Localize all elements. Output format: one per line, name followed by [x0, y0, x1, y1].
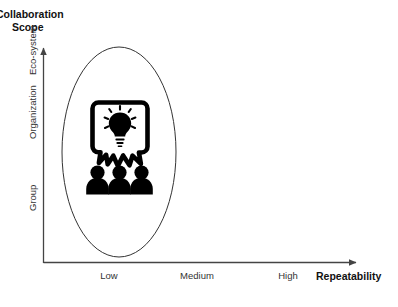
person-head [90, 165, 104, 179]
person-middle [108, 165, 131, 194]
bulb-base-line-2 [116, 142, 123, 144]
person-body [86, 178, 109, 195]
person-body [130, 178, 153, 195]
person-right [130, 165, 153, 194]
people-idea-presentation-icon [86, 103, 153, 195]
x-tick-label-medium: Medium [174, 270, 220, 281]
x-axis-title: Repeatability [316, 270, 381, 282]
y-axis-title-line-2: Scope [0, 21, 156, 34]
diagram-graphics [0, 0, 398, 307]
diagram-canvas: Collaboration Scope Repeatability Low Me… [0, 0, 398, 307]
bulb-base-line-1 [115, 139, 124, 141]
person-head [134, 165, 148, 179]
lightbulb-icon [109, 113, 131, 137]
x-tick-label-low: Low [92, 270, 126, 281]
bulb-base-line-3 [118, 145, 123, 147]
y-tick-label-organization: Organization [27, 128, 41, 139]
y-tick-label-ecosystem: Eco-system [27, 64, 41, 75]
y-tick-label-group: Group [27, 200, 41, 211]
person-head [112, 165, 126, 179]
x-tick-label-high: High [271, 270, 305, 281]
y-axis-title-line-1: Collaboration [0, 8, 156, 21]
cluster-ellipse [62, 47, 176, 257]
person-left [86, 165, 109, 194]
person-body [108, 178, 131, 195]
y-axis-title: Collaboration Scope [0, 8, 156, 34]
